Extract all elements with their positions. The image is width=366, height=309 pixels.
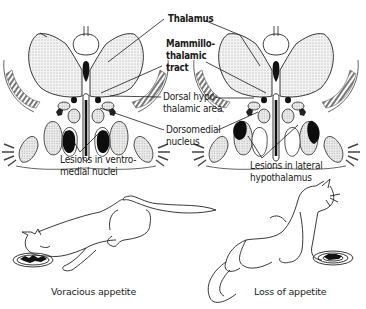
loss-appetite-cat-drawing: [208, 179, 353, 302]
left-section-caption-2: medial nuclei: [60, 166, 118, 178]
label-mammillothalamic-2: thalamic: [166, 50, 206, 62]
label-dorsomedial-2: nucleus: [166, 136, 199, 148]
label-dorsal-hypothalamic-1: Dorsal hypo-: [163, 91, 218, 103]
label-thalamus: Thalamus: [168, 13, 213, 25]
label-mammillothalamic-1: Mammillo-: [166, 38, 215, 50]
voracious-cat-drawing: [13, 196, 216, 271]
label-mammillothalamic-3: tract: [166, 62, 188, 74]
left-section-caption-1: Lesions in ventro-: [60, 154, 136, 166]
label-dorsal-hypothalamic-2: thalamic area: [163, 103, 222, 115]
label-dorsomedial-1: Dorsomedial: [166, 124, 221, 136]
left-brain-section: [2, 26, 170, 169]
loss-of-appetite-caption: Loss of appetite: [254, 286, 327, 297]
voracious-appetite-caption: Voracious appetite: [51, 286, 136, 297]
right-section-caption-1: Lesions in lateral: [250, 160, 323, 172]
right-section-caption-2: hypothalamus: [250, 172, 312, 184]
